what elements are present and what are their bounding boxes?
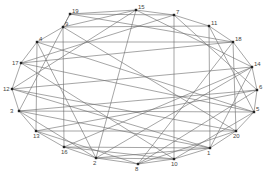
- node-label-15: 15: [138, 4, 145, 10]
- node-14: [251, 66, 253, 68]
- node-4: [36, 41, 38, 43]
- edge-5-4: [37, 42, 254, 112]
- node-label-17: 17: [12, 60, 19, 66]
- edge-20-18: [233, 42, 236, 131]
- node-label-13: 13: [33, 133, 40, 139]
- node-16: [63, 146, 65, 148]
- edge-11-18: [209, 26, 233, 42]
- node-8: [137, 163, 139, 165]
- edge-3-5: [19, 111, 254, 112]
- node-15: [135, 9, 137, 11]
- edge-9-16: [63, 27, 64, 147]
- edge-18-19: [70, 14, 233, 42]
- edge-2-3: [19, 111, 96, 158]
- edge-17-5: [21, 63, 254, 112]
- edge-18-14: [233, 42, 252, 67]
- edge-7-17: [21, 15, 174, 63]
- edge-5-20: [236, 112, 254, 131]
- node-19: [69, 13, 71, 15]
- node-label-20: 20: [233, 133, 240, 139]
- edge-10-8: [138, 159, 174, 164]
- node-2: [95, 157, 97, 159]
- node-3: [18, 110, 20, 112]
- node-label-19: 19: [72, 8, 79, 14]
- edge-17-4: [21, 42, 37, 63]
- edge-17-18: [21, 42, 233, 63]
- node-7: [173, 14, 175, 16]
- edge-3-6: [19, 90, 257, 111]
- edge-8-2: [96, 158, 138, 164]
- node-17: [20, 62, 22, 64]
- node-12: [11, 88, 13, 90]
- nodes: 1234567891011121314151617181920: [3, 4, 263, 173]
- node-5: [253, 111, 255, 113]
- edge-7-11: [174, 15, 209, 26]
- node-label-1: 1: [207, 150, 211, 156]
- node-label-14: 14: [254, 61, 261, 67]
- node-label-3: 3: [10, 108, 14, 114]
- edge-15-12: [12, 10, 136, 89]
- node-11: [208, 25, 210, 27]
- node-label-11: 11: [211, 20, 218, 26]
- node-6: [256, 89, 258, 91]
- edge-2-10: [96, 158, 174, 159]
- edge-19-7: [70, 14, 174, 15]
- node-label-12: 12: [3, 86, 10, 92]
- node-label-7: 7: [176, 9, 180, 15]
- edge-12-17: [12, 63, 21, 89]
- edge-12-14: [12, 67, 252, 89]
- node-13: [35, 130, 37, 132]
- node-label-18: 18: [235, 36, 242, 42]
- edge-15-2: [96, 10, 136, 158]
- node-label-6: 6: [259, 84, 263, 90]
- node-20: [235, 130, 237, 132]
- node-label-2: 2: [93, 160, 97, 166]
- edge-20-9: [63, 27, 236, 131]
- node-9: [62, 26, 64, 28]
- node-10: [173, 158, 175, 160]
- edges: [12, 10, 257, 164]
- edge-10-5: [174, 112, 254, 159]
- node-label-5: 5: [256, 106, 260, 112]
- node-label-16: 16: [61, 149, 68, 155]
- node-label-4: 4: [39, 36, 43, 42]
- node-1: [209, 147, 211, 149]
- node-label-10: 10: [171, 161, 178, 167]
- graph-diagram: 1234567891011121314151617181920: [0, 0, 263, 177]
- node-18: [232, 41, 234, 43]
- node-label-8: 8: [135, 166, 139, 172]
